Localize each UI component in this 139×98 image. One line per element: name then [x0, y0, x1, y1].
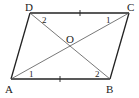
angle-label-d2: 2 — [42, 15, 47, 25]
vertex-label-c: C — [127, 1, 134, 13]
side-da — [11, 13, 30, 79]
vertex-label-d: D — [25, 1, 33, 13]
vertex-label-b: B — [106, 83, 113, 95]
angle-label-a1: 1 — [29, 69, 34, 79]
vertex-label-a: A — [5, 83, 13, 95]
side-bc — [110, 13, 129, 79]
center-label-o: O — [66, 33, 74, 45]
angle-label-b2: 2 — [95, 69, 100, 79]
angle-label-c1: 1 — [106, 15, 111, 25]
parallelogram-diagram: A B C D O 2 1 1 2 — [0, 0, 139, 98]
